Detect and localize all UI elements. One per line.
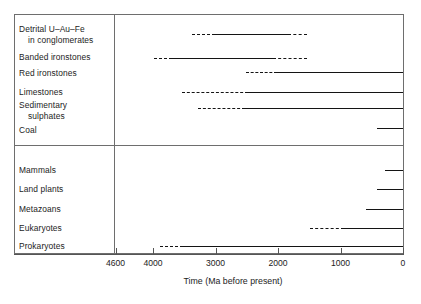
range-bar-dashed [192,34,215,35]
category-label: Prokaryotes [19,242,65,251]
range-bar-dashed [310,228,344,229]
x-axis-tick [116,248,117,254]
category-label: Banded ironstones [19,53,91,62]
range-bar-solid [172,58,273,59]
range-bar-dashed [160,246,183,247]
x-axis-tick-label: 3000 [206,258,225,268]
range-bar-solid [248,92,403,93]
chart-frame [14,14,404,254]
range-bar-dashed [182,92,248,93]
x-axis-tick [216,248,217,254]
x-axis-line [14,254,404,255]
x-axis-tick-label: 4600 [106,258,125,268]
range-bar-dashed [246,72,277,73]
x-axis-tick [278,248,279,254]
category-label: Land plants [19,185,63,194]
range-bar-solid [377,128,403,129]
category-label: Limestones [19,88,63,97]
group-divider-horizontal [14,145,404,146]
range-bar-solid [215,34,288,35]
x-axis-tick [341,248,342,254]
range-bar-solid [277,72,403,73]
x-axis-tick [153,248,154,254]
x-axis-title: Time (Ma before present) [0,276,421,286]
label-column-divider [114,14,115,255]
range-bar-solid [344,228,403,229]
category-label: Mammals [19,166,56,175]
category-label: Detrital U–Au–Fe [19,25,85,34]
category-label: Eukaryotes [19,224,62,233]
range-bar-dashed [198,108,245,109]
geological-timeline-chart: Detrital U–Au–Fein conglomeratesBanded i… [0,0,421,304]
category-label: Metazoans [19,205,61,214]
category-label: in conglomerates [19,36,93,45]
category-label: Coal [19,126,37,135]
x-axis-tick-label: 1000 [331,258,350,268]
range-bar-solid [183,246,403,247]
category-label: sulphates [19,112,65,121]
x-axis-tick-label: 0 [401,258,406,268]
category-label: Sedimentary [19,101,67,110]
range-bar-dashed [288,34,307,35]
range-bar-dashed [154,58,172,59]
range-bar-solid [385,170,403,171]
range-bar-solid [366,209,403,210]
x-axis-tick-label: 4000 [143,258,162,268]
range-bar-solid [245,108,403,109]
x-axis-title-text: Time (Ma before present) [184,276,283,286]
range-bar-dashed [273,58,307,59]
x-axis-tick [403,248,404,254]
range-bar-solid [377,189,403,190]
x-axis-tick-label: 2000 [268,258,287,268]
category-label: Red ironstones [19,69,77,78]
